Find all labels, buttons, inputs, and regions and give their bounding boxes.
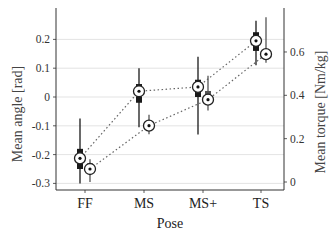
y-tick-label-right: 0 [290,176,296,188]
median-dot [78,157,81,160]
dotted-trend-line [90,54,266,169]
y-tick-label-left: -0.3 [32,177,50,189]
box-glyphs [75,17,272,183]
median-dot [137,90,140,93]
box-FF [85,159,96,182]
median-dot [196,85,199,88]
box-MS [144,115,155,135]
box-MS [134,68,145,127]
y-tick-label-left: 0.1 [36,62,51,74]
median-dot [147,124,150,127]
x-tick-label: MS [134,196,154,211]
y-tick-label-left: -0.2 [32,149,50,161]
dotted-trend-line [80,41,256,159]
y-axis-right-label: Mean torque [Nm/kg] [313,51,328,174]
y-axis-left-label: Mean angle [rad] [10,66,25,162]
box-TS [261,17,272,63]
y-tick-label-left: -0.1 [32,120,50,132]
box-MS+ [203,76,214,111]
connecting-dotted-lines [80,41,266,169]
median-dot [254,39,257,42]
median-dot [88,167,91,170]
box-TS [251,21,262,66]
x-tick-label: TS [253,196,269,211]
box-FF [75,119,86,184]
y-tick-label-right: 0.4 [290,89,305,101]
axes: 0.20.10-0.1-0.2-0.30.60.40.20FFMSMS+TS [32,8,305,211]
y-tick-label-left: 0.2 [36,33,51,45]
median-dot [264,53,267,56]
y-tick-label-right: 0.6 [290,46,305,58]
y-tick-label-right: 0.2 [290,133,305,145]
x-axis-label: Pose [157,216,183,231]
box-plot-chart: 0.20.10-0.1-0.2-0.30.60.40.20FFMSMS+TS M… [0,0,335,239]
median-dot [206,98,209,101]
x-tick-label: MS+ [189,196,217,211]
y-tick-label-left: 0 [44,91,50,103]
x-tick-label: FF [77,196,93,211]
